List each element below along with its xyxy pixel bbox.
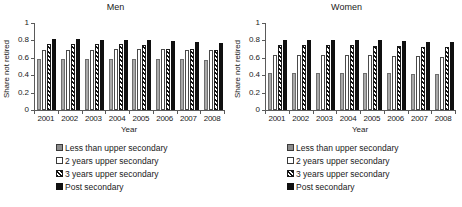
legend-item-label: Less than upper secondary (296, 143, 399, 153)
white-square-icon (56, 157, 63, 164)
bar (95, 44, 99, 110)
y-tick-label: 1 (25, 19, 29, 27)
legend-item[interactable]: 3 years upper secondary (56, 167, 231, 180)
bar-group (361, 23, 385, 110)
x-tick-mark (224, 110, 225, 114)
bar (450, 42, 454, 110)
bar (47, 44, 51, 110)
bar-group (432, 23, 456, 110)
legend-item[interactable]: Post secondary (287, 180, 462, 193)
legend-item-label: Post secondary (65, 182, 124, 192)
y-tick-mark (31, 40, 35, 41)
legend-item[interactable]: 3 years upper secondary (287, 167, 462, 180)
bar (350, 45, 354, 110)
legend-item[interactable]: 2 years upper secondary (56, 154, 231, 167)
x-axis-title-women: Year (265, 125, 455, 134)
bar (435, 74, 439, 110)
black-square-icon (56, 183, 63, 190)
bar-group (201, 23, 225, 110)
x-axis-labels-women: 20012002200320042005200620072008 (265, 114, 455, 124)
bar (52, 39, 56, 110)
legend-item[interactable]: Less than upper secondary (287, 141, 462, 154)
bar-groups-men (35, 23, 225, 110)
bar (42, 50, 46, 110)
y-tick-mark (262, 23, 266, 24)
bar (440, 57, 444, 110)
plot-area-men: Share not retired 00.20.40.60.81 2001200… (0, 15, 231, 133)
legend-items-men: Less than upper secondary2 years upper s… (56, 141, 231, 193)
x-tick-label: 2001 (265, 114, 289, 124)
y-tick-mark (262, 58, 266, 59)
bar (316, 73, 320, 110)
bar (278, 45, 282, 110)
legend-item-label: Post secondary (296, 182, 355, 192)
legend-item[interactable]: Post secondary (56, 180, 231, 193)
x-tick-label: 2008 (200, 114, 224, 124)
bar (331, 40, 335, 110)
bar (345, 55, 349, 110)
bar (142, 45, 146, 110)
y-tick-mark (262, 40, 266, 41)
bar (119, 44, 123, 110)
bar (147, 40, 151, 110)
y-tick-label: 1 (256, 19, 260, 27)
legend-item-label: 3 years upper secondary (296, 169, 390, 179)
bar (283, 40, 287, 110)
x-axis-title-men: Year (34, 125, 224, 134)
x-tick-label: 2008 (431, 114, 455, 124)
legend-item-label: 3 years upper secondary (65, 169, 159, 179)
bars-canvas-women (265, 23, 456, 111)
legend-item[interactable]: Less than upper secondary (56, 141, 231, 154)
y-tick-mark (31, 58, 35, 59)
bar (378, 40, 382, 110)
bar-group (178, 23, 202, 110)
bar (166, 49, 170, 110)
black-square-icon (287, 183, 294, 190)
bar (100, 40, 104, 110)
y-tick-label: 0.8 (18, 36, 29, 44)
y-tick-label: 0 (256, 106, 260, 114)
bar (411, 74, 415, 110)
bar (90, 50, 94, 110)
bars-canvas-men (34, 23, 225, 111)
hatched-square-icon (287, 170, 294, 177)
gray-filled-square-icon (287, 144, 294, 151)
bar (340, 73, 344, 110)
y-tick-label: 0.6 (18, 54, 29, 62)
x-tick-label: 2007 (408, 114, 432, 124)
bar (204, 60, 208, 110)
x-tick-label: 2005 (360, 114, 384, 124)
x-tick-label: 2002 (58, 114, 82, 124)
legend-item[interactable]: 2 years upper secondary (287, 154, 462, 167)
bar (161, 49, 165, 110)
bar (387, 73, 391, 110)
bar (71, 44, 75, 110)
bar (326, 45, 330, 110)
bar (185, 50, 189, 110)
x-tick-label: 2004 (336, 114, 360, 124)
bar (402, 41, 406, 110)
chart-panel-women: Women Share not retired 00.20.40.60.81 2… (231, 0, 462, 133)
bar (195, 42, 199, 110)
bar (297, 55, 301, 110)
bar (392, 56, 396, 110)
bar (268, 73, 272, 110)
bar (114, 49, 118, 110)
x-tick-mark (455, 110, 456, 114)
chart-panels: Men Share not retired 00.20.40.60.81 200… (0, 0, 462, 133)
bar (190, 49, 194, 110)
legend-item-label: Less than upper secondary (65, 143, 168, 153)
bar (124, 40, 128, 110)
y-tick-mark (31, 75, 35, 76)
y-axis-ticks-women: 00.20.40.60.81 (243, 23, 263, 110)
white-square-icon (287, 157, 294, 164)
y-tick-mark (31, 93, 35, 94)
bar (132, 59, 136, 110)
x-tick-label: 2004 (105, 114, 129, 124)
bar-group (266, 23, 290, 110)
bar (61, 59, 65, 110)
x-tick-label: 2007 (177, 114, 201, 124)
y-axis-ticks-men: 00.20.40.60.81 (12, 23, 32, 110)
legend-item-label: 2 years upper secondary (65, 156, 159, 166)
bar (37, 59, 41, 110)
